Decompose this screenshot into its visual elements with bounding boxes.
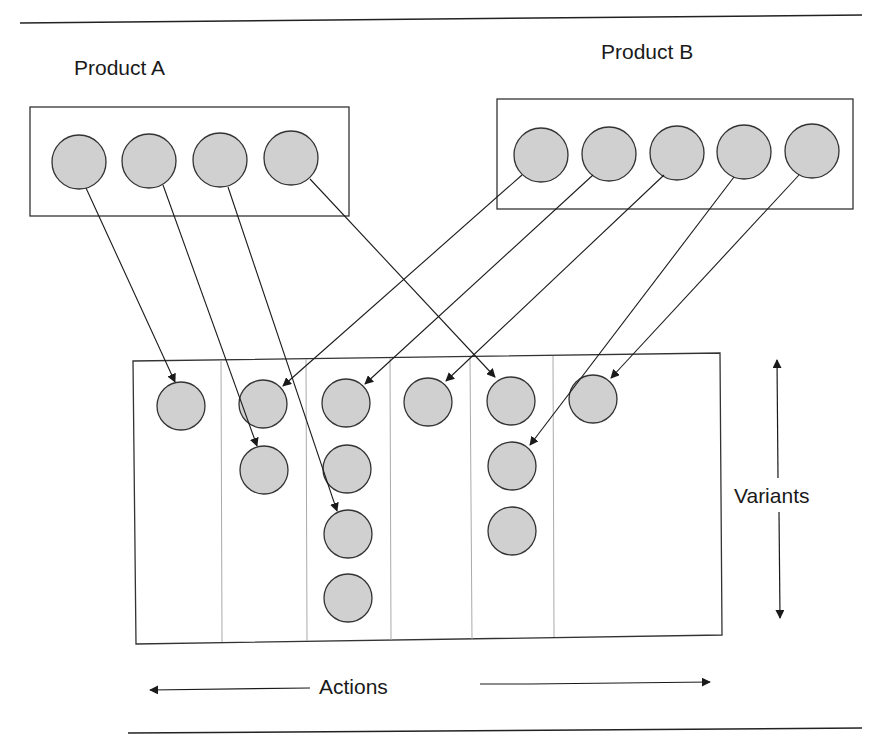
matrix-node-c3-r4 bbox=[324, 574, 372, 622]
actions-axis bbox=[150, 682, 710, 690]
product-a-node-1 bbox=[52, 135, 106, 189]
bottom-rule bbox=[128, 728, 862, 733]
product-b-label: Product B bbox=[601, 41, 693, 62]
product-a-node-2 bbox=[122, 134, 176, 188]
variants-axis-label: Variants bbox=[732, 485, 811, 506]
product-a-node-4 bbox=[264, 131, 318, 185]
matrix-node-c5-r2 bbox=[488, 442, 536, 490]
column-divider-1 bbox=[221, 360, 222, 642]
column-divider-3 bbox=[390, 358, 391, 640]
actions-variants-matrix bbox=[133, 353, 722, 644]
matrix-node-c1-r1 bbox=[157, 382, 205, 430]
matrix-node-c3-r1 bbox=[322, 379, 370, 427]
variants-arrow-up bbox=[777, 360, 778, 478]
matrix-node-c4-r1 bbox=[404, 378, 452, 426]
matrix-node-c5-r1 bbox=[487, 377, 535, 425]
arrow-a1-to-c1r1 bbox=[86, 188, 175, 382]
product-b-node-1 bbox=[514, 128, 568, 182]
actions-arrow-right-head bbox=[530, 682, 710, 684]
column-divider-5 bbox=[553, 356, 554, 637]
arrow-b5-to-c6r1 bbox=[611, 175, 799, 378]
arrow-b3-to-c4r1 bbox=[446, 175, 664, 381]
arrow-b1-to-c2r1 bbox=[283, 175, 522, 386]
product-b-node-5 bbox=[785, 124, 839, 178]
matrix-node-c5-r3 bbox=[488, 507, 536, 555]
product-b-node-4 bbox=[717, 125, 771, 179]
diagram-canvas bbox=[0, 0, 885, 747]
product-b-node-3 bbox=[650, 126, 704, 180]
actions-axis-label: Actions bbox=[313, 676, 394, 697]
matrix-node-c2-r2 bbox=[240, 446, 288, 494]
product-a-mappings bbox=[86, 179, 495, 511]
variants-arrow-down bbox=[779, 512, 780, 618]
arrow-b4-to-c5r2 bbox=[530, 177, 734, 445]
product-b-group bbox=[497, 99, 853, 209]
column-divider-4 bbox=[470, 357, 472, 639]
matrix-node-c2-r1 bbox=[239, 380, 287, 428]
product-a-label: Product A bbox=[74, 57, 165, 78]
product-a-group bbox=[30, 107, 349, 216]
matrix-node-c3-r2 bbox=[323, 445, 371, 493]
matrix-node-c6-r1 bbox=[569, 375, 617, 423]
actions-arrow-left bbox=[150, 688, 310, 690]
top-rule bbox=[20, 15, 862, 23]
product-a-node-3 bbox=[193, 133, 247, 187]
arrow-a4-to-c5r1 bbox=[310, 179, 495, 377]
product-b-node-2 bbox=[582, 127, 636, 181]
arrow-b2-to-c3r1 bbox=[365, 175, 593, 384]
matrix-node-c3-r3 bbox=[324, 510, 372, 558]
column-divider-2 bbox=[306, 359, 307, 641]
